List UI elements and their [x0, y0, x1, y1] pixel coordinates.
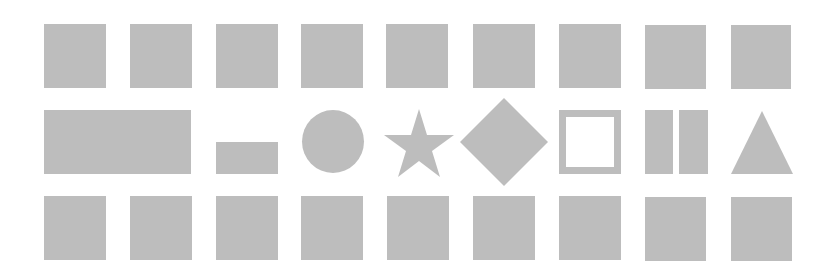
square-r1-c2 [130, 24, 192, 88]
star-shape [383, 106, 455, 178]
square-r3-c7 [559, 196, 621, 260]
square-r3-c4 [301, 196, 363, 260]
square-r1-c6 [473, 24, 535, 88]
square-r1-c3 [216, 24, 278, 88]
wide-rectangle [44, 110, 191, 174]
square-r1-c1 [44, 24, 106, 88]
square-r1-c5 [386, 24, 448, 88]
square-r3-c1 [44, 196, 106, 260]
bar-left [645, 110, 673, 174]
bar-right [679, 110, 708, 174]
outline-square [559, 110, 621, 174]
square-r1-c7 [559, 24, 621, 88]
square-r3-c6 [473, 196, 535, 260]
square-r1-c8 [645, 25, 706, 89]
triangle-shape [731, 111, 793, 174]
square-r1-c4 [301, 24, 363, 88]
circle [302, 110, 364, 173]
square-r3-c3 [216, 196, 278, 260]
square-r3-c5 [387, 196, 449, 260]
square-r3-c8 [645, 197, 706, 261]
diamond-shape [460, 98, 548, 186]
square-r3-c2 [130, 196, 192, 260]
square-r1-c9 [731, 25, 791, 89]
square-r3-c9 [731, 197, 792, 261]
small-rectangle [216, 142, 278, 174]
